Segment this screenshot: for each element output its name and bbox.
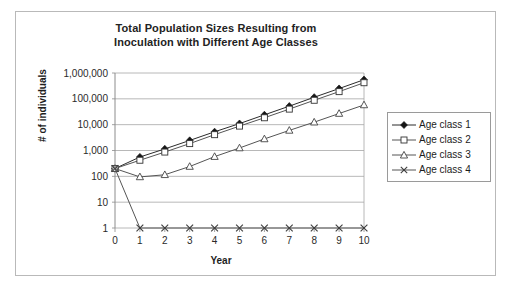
y-axis-tick-label: 10 <box>97 197 109 208</box>
legend-item[interactable]: Age class 3 <box>391 147 487 162</box>
y-axis-tick-label: 1 <box>102 223 108 234</box>
legend-marker-icon <box>391 148 417 162</box>
legend-item-label: Age class 1 <box>417 119 471 130</box>
legend-item-label: Age class 4 <box>417 164 471 175</box>
y-axis-tick-label: 1,000 <box>83 145 108 156</box>
legend-marker-icon <box>391 163 417 177</box>
y-axis-tick-label: 100 <box>91 171 108 182</box>
x-axis-tick-label: 7 <box>287 235 293 246</box>
x-axis-tick-label: 10 <box>358 235 370 246</box>
legend-item[interactable]: Age class 2 <box>391 132 487 147</box>
data-point-marker <box>286 106 292 112</box>
data-point-marker <box>187 141 193 147</box>
x-axis-tick-label: 9 <box>336 235 342 246</box>
data-point-marker <box>137 157 143 163</box>
data-series <box>112 165 368 231</box>
data-point-marker <box>212 132 218 138</box>
data-point-marker <box>336 89 342 95</box>
data-series <box>112 80 367 172</box>
data-point-marker <box>311 97 317 103</box>
legend-item[interactable]: Age class 4 <box>391 162 487 177</box>
legend-item-label: Age class 3 <box>417 149 471 160</box>
legend-item-label: Age class 2 <box>417 134 471 145</box>
chart-legend: Age class 1Age class 2Age class 3Age cla… <box>387 112 491 182</box>
y-axis-tick-label: 100,000 <box>72 93 109 104</box>
legend-marker-icon <box>391 133 417 147</box>
x-axis-tick-label: 5 <box>237 235 243 246</box>
chart-container: Total Population Sizes Resulting from In… <box>15 11 496 276</box>
legend-marker-icon <box>391 118 417 132</box>
y-axis-tick-label: 1,000,000 <box>64 68 109 79</box>
x-axis-tick-label: 1 <box>137 235 143 246</box>
data-point-marker <box>361 80 367 86</box>
x-axis-tick-label: 8 <box>311 235 317 246</box>
x-axis-tick-label: 4 <box>212 235 218 246</box>
y-axis-tick-label: 10,000 <box>77 119 108 130</box>
x-axis-tick-label: 0 <box>112 235 118 246</box>
data-point-marker <box>237 123 243 129</box>
x-axis-tick-label: 6 <box>262 235 268 246</box>
series-line <box>115 169 364 228</box>
data-point-marker <box>261 115 267 121</box>
legend-item[interactable]: Age class 1 <box>391 117 487 132</box>
data-series <box>111 101 367 180</box>
data-point-marker <box>162 149 168 155</box>
x-axis-tick-label: 2 <box>162 235 168 246</box>
x-axis-tick-label: 3 <box>187 235 193 246</box>
data-point-marker <box>360 101 367 108</box>
series-line <box>115 105 364 177</box>
